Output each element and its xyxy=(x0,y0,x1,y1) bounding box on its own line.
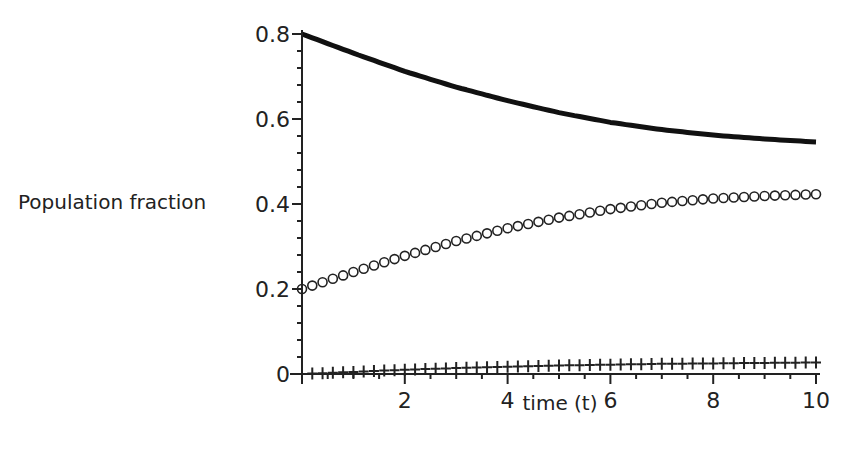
circle-marker xyxy=(503,224,512,233)
cross-marker xyxy=(482,361,492,373)
circle-marker xyxy=(452,236,461,245)
x-tick-label: 8 xyxy=(706,388,720,413)
y-axis-label: Population fraction xyxy=(18,190,206,214)
cross-marker xyxy=(503,361,513,373)
cross-marker xyxy=(461,362,471,374)
circle-marker xyxy=(390,255,399,264)
cross-marker xyxy=(369,365,379,377)
cross-marker xyxy=(739,357,749,369)
circle-marker xyxy=(698,195,707,204)
cross-marker xyxy=(636,358,646,370)
circle-marker xyxy=(462,234,471,243)
cross-marker xyxy=(441,362,451,374)
cross-marker xyxy=(338,366,348,378)
cross-marker xyxy=(626,358,636,370)
circle-marker xyxy=(709,194,718,203)
x-tick-label: 2 xyxy=(398,388,412,413)
circle-marker xyxy=(411,248,420,257)
circle-marker xyxy=(770,191,779,200)
cross-marker xyxy=(677,358,687,370)
circle-marker xyxy=(606,205,615,214)
circle-marker xyxy=(647,200,656,209)
circle-marker xyxy=(534,217,543,226)
circle-marker xyxy=(400,251,409,260)
y-ticks: 00.20.40.60.8 xyxy=(255,22,302,387)
circle-marker xyxy=(380,258,389,267)
series-layer xyxy=(297,34,821,380)
y-tick-label: 0.4 xyxy=(255,192,290,217)
circle-marker xyxy=(349,268,358,277)
circle-marker xyxy=(791,190,800,199)
circle-marker xyxy=(513,222,522,231)
cross-marker xyxy=(647,358,657,370)
cross-marker xyxy=(718,357,728,369)
cross-marker xyxy=(790,357,800,369)
series-solid-line xyxy=(302,34,816,142)
series-circle-markers xyxy=(298,190,821,294)
circle-marker xyxy=(596,206,605,215)
cross-marker xyxy=(523,360,533,372)
cross-marker xyxy=(657,358,667,370)
circle-marker xyxy=(760,191,769,200)
cross-marker xyxy=(605,359,615,371)
circle-marker xyxy=(369,261,378,270)
circle-marker xyxy=(359,264,368,273)
cross-marker xyxy=(688,358,698,370)
circle-marker xyxy=(565,211,574,220)
y-tick-label: 0.2 xyxy=(255,277,290,302)
circle-marker xyxy=(616,203,625,212)
circle-marker xyxy=(483,229,492,238)
y-tick-label: 0 xyxy=(276,362,290,387)
cross-marker xyxy=(451,362,461,374)
y-tick-label: 0.6 xyxy=(255,107,290,132)
circle-marker xyxy=(431,242,440,251)
circle-marker xyxy=(318,278,327,287)
cross-marker xyxy=(359,365,369,377)
circle-marker xyxy=(585,208,594,217)
x-tick-label: 4 xyxy=(501,388,515,413)
x-tick-label: 10 xyxy=(802,388,830,413)
circle-marker xyxy=(668,197,677,206)
circle-marker xyxy=(740,192,749,201)
circle-marker xyxy=(750,192,759,201)
circle-marker xyxy=(493,226,502,235)
cross-marker xyxy=(811,357,821,369)
circle-marker xyxy=(328,274,337,283)
circle-marker xyxy=(801,190,810,199)
cross-marker xyxy=(544,360,554,372)
x-tick-label: 6 xyxy=(603,388,617,413)
circle-marker xyxy=(524,219,533,228)
solid-curve xyxy=(302,34,816,142)
circle-marker xyxy=(688,196,697,205)
circle-marker xyxy=(575,210,584,219)
cross-marker xyxy=(729,357,739,369)
circle-marker xyxy=(637,201,646,210)
circle-marker xyxy=(544,215,553,224)
cross-marker xyxy=(595,359,605,371)
cross-marker xyxy=(770,357,780,369)
cross-marker xyxy=(472,362,482,374)
cross-marker xyxy=(667,358,677,370)
circle-marker xyxy=(781,191,790,200)
circle-marker xyxy=(308,281,317,290)
circle-marker xyxy=(678,197,687,206)
circle-marker xyxy=(421,245,430,254)
circle-marker xyxy=(472,231,481,240)
circle-marker xyxy=(812,190,821,199)
axes-layer: 00.20.40.60.8 246810 xyxy=(255,22,830,413)
circle-marker xyxy=(729,193,738,202)
circle-marker xyxy=(441,239,450,248)
cross-marker xyxy=(328,367,338,379)
cross-marker xyxy=(492,361,502,373)
cross-marker xyxy=(585,359,595,371)
cross-marker xyxy=(698,357,708,369)
circle-marker xyxy=(339,271,348,280)
cross-marker xyxy=(554,360,564,372)
cross-marker xyxy=(801,357,811,369)
cross-marker xyxy=(564,359,574,371)
cross-marker xyxy=(575,359,585,371)
cross-marker xyxy=(760,357,770,369)
cross-marker xyxy=(616,358,626,370)
cross-marker xyxy=(780,357,790,369)
x-axis-label: time (t) xyxy=(523,391,598,415)
